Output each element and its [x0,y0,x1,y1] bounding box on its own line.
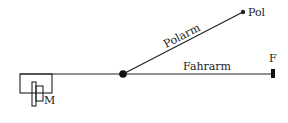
tracer-arm-label: Fahrarm [183,60,232,73]
pole-point [241,10,245,14]
measuring-wheel [32,82,36,106]
tracer-point-marker [271,69,275,78]
tracer-label: F [269,52,277,65]
pole-label: Pol [248,6,266,19]
pivot-joint [119,70,127,78]
planimeter-diagram: Pol Polarm Fahrarm F M [0,0,288,123]
measuring-wheel-label: M [44,94,55,107]
